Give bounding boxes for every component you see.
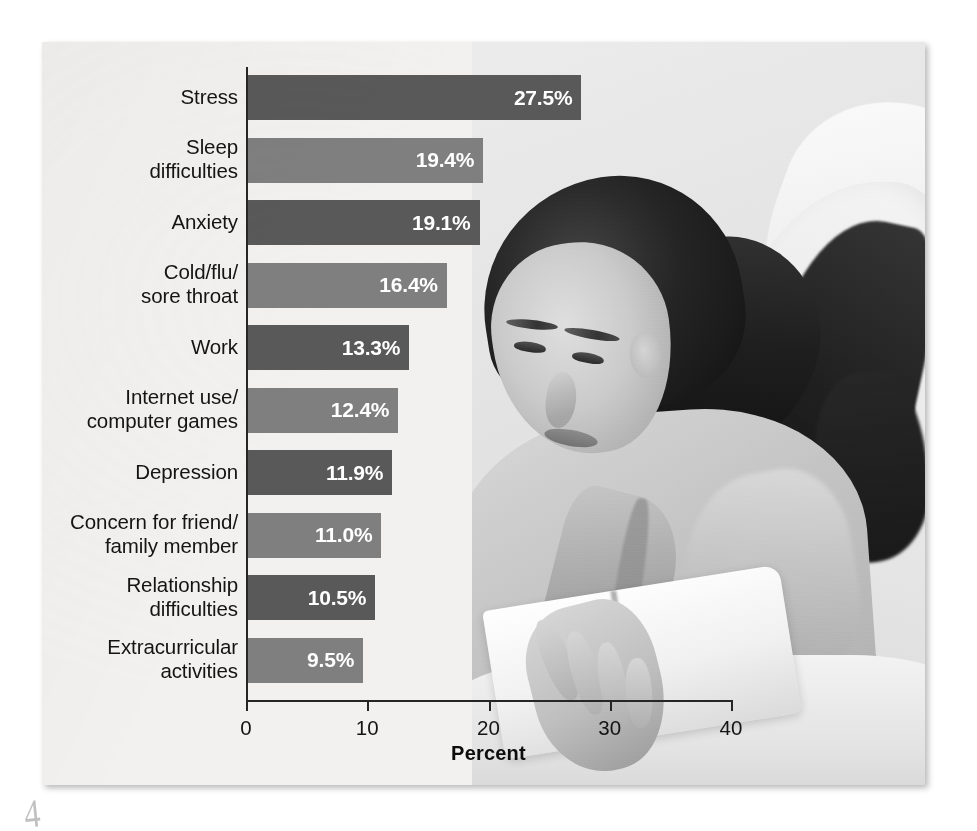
bar-chart: StressSleepdifficultiesAnxietyCold/flu/s… — [42, 42, 925, 785]
bar: 12.4% — [248, 388, 398, 433]
category-label-line: Extracurricular — [42, 635, 238, 659]
bar-value-label: 11.9% — [326, 461, 392, 485]
category-label-line: Cold/flu/ — [42, 260, 238, 284]
bar: 11.0% — [248, 513, 381, 558]
bar: 19.4% — [248, 138, 483, 183]
bar: 9.5% — [248, 638, 363, 683]
x-axis-title: Percent — [246, 742, 731, 765]
page-number-artifact: 4 — [22, 789, 43, 831]
category-label: Extracurricularactivities — [42, 635, 238, 683]
category-label-line: Anxiety — [42, 210, 238, 234]
x-axis-tick — [489, 700, 491, 711]
category-label-line: sore throat — [42, 284, 238, 308]
bar-value-label: 19.1% — [412, 211, 480, 235]
category-label-line: Relationship — [42, 573, 238, 597]
bar-value-label: 9.5% — [307, 648, 363, 672]
category-label-line: family member — [42, 534, 238, 558]
bar-value-label: 27.5% — [514, 86, 582, 110]
category-label: Cold/flu/sore throat — [42, 260, 238, 308]
category-label-line: difficulties — [42, 159, 238, 183]
bar: 16.4% — [248, 263, 447, 308]
bar-value-label: 10.5% — [308, 586, 376, 610]
category-label: Work — [42, 335, 238, 359]
plot-area: 27.5%19.4%19.1%16.4%13.3%12.4%11.9%11.0%… — [246, 42, 806, 700]
category-label-line: difficulties — [42, 597, 238, 621]
bar-value-label: 13.3% — [342, 336, 410, 360]
x-axis-tick-label: 20 — [477, 716, 500, 740]
category-label: Internet use/computer games — [42, 385, 238, 433]
category-label-line: computer games — [42, 409, 238, 433]
category-label-line: Depression — [42, 460, 238, 484]
category-label-line: Internet use/ — [42, 385, 238, 409]
bar: 27.5% — [248, 75, 581, 120]
category-label: Sleepdifficulties — [42, 135, 238, 183]
category-label: Depression — [42, 460, 238, 484]
bar-value-label: 16.4% — [379, 273, 447, 297]
category-label-line: activities — [42, 659, 238, 683]
category-label: Concern for friend/family member — [42, 510, 238, 558]
category-label: Stress — [42, 85, 238, 109]
bar: 11.9% — [248, 450, 392, 495]
category-label-line: Stress — [42, 85, 238, 109]
x-axis-tick — [731, 700, 733, 711]
x-axis-line: 010203040 — [246, 700, 731, 702]
figure-panel: StressSleepdifficultiesAnxietyCold/flu/s… — [42, 42, 925, 785]
category-label-line: Sleep — [42, 135, 238, 159]
category-label: Anxiety — [42, 210, 238, 234]
x-axis-tick-label: 40 — [720, 716, 743, 740]
bar-value-label: 12.4% — [331, 398, 399, 422]
bar: 19.1% — [248, 200, 480, 245]
bar: 10.5% — [248, 575, 375, 620]
x-axis-tick — [367, 700, 369, 711]
category-label-line: Work — [42, 335, 238, 359]
category-label: Relationshipdifficulties — [42, 573, 238, 621]
x-axis-tick-label: 10 — [356, 716, 379, 740]
bar: 13.3% — [248, 325, 409, 370]
x-axis-tick — [246, 700, 248, 711]
x-axis-tick-label: 30 — [598, 716, 621, 740]
x-axis-tick — [610, 700, 612, 711]
category-label-line: Concern for friend/ — [42, 510, 238, 534]
bar-value-label: 11.0% — [315, 523, 381, 547]
bar-value-label: 19.4% — [416, 148, 484, 172]
x-axis-tick-label: 0 — [240, 716, 251, 740]
